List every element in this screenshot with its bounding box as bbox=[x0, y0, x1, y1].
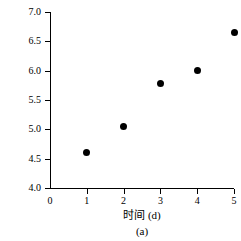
x-axis-tick-label: 4 bbox=[187, 196, 207, 206]
data-point bbox=[157, 80, 164, 87]
y-axis-tick bbox=[45, 71, 50, 72]
scatter-plot-figure: logN 4.04.55.05.56.06.57.0 012345 时间 (d)… bbox=[0, 0, 241, 241]
y-axis-tick bbox=[45, 188, 50, 189]
y-axis-tick bbox=[45, 159, 50, 160]
y-axis-tick-label: 5.0 bbox=[15, 124, 41, 134]
y-axis-tick-label: 6.5 bbox=[15, 36, 41, 46]
y-axis-tick-label: 6.0 bbox=[15, 66, 41, 76]
y-axis-tick bbox=[45, 100, 50, 101]
data-point bbox=[231, 29, 238, 36]
x-axis-tick-label: 0 bbox=[40, 196, 60, 206]
x-axis-tick-label: 3 bbox=[150, 196, 170, 206]
y-axis-tick-label: 7.0 bbox=[15, 7, 41, 17]
y-axis-tick-label: 5.5 bbox=[15, 95, 41, 105]
data-point bbox=[120, 123, 127, 130]
x-axis-label: 时间 (d) bbox=[50, 209, 234, 222]
y-axis-tick-label: 4.5 bbox=[15, 154, 41, 164]
y-axis-tick-label: 4.0 bbox=[15, 183, 41, 193]
x-axis-tick bbox=[124, 189, 125, 194]
x-axis-tick bbox=[234, 189, 235, 194]
y-axis-tick bbox=[45, 12, 50, 13]
x-axis-tick-label: 1 bbox=[77, 196, 97, 206]
x-axis-tick bbox=[87, 189, 88, 194]
y-axis-tick bbox=[45, 129, 50, 130]
y-axis-tick bbox=[45, 41, 50, 42]
figure-caption: (a) bbox=[50, 225, 234, 238]
data-point bbox=[194, 67, 201, 74]
x-axis-tick-label: 2 bbox=[114, 196, 134, 206]
x-axis-line bbox=[50, 188, 234, 189]
x-axis-tick bbox=[160, 189, 161, 194]
y-axis-line bbox=[50, 12, 51, 188]
data-point bbox=[83, 149, 90, 156]
x-axis-tick bbox=[197, 189, 198, 194]
x-axis-tick-label: 5 bbox=[224, 196, 241, 206]
